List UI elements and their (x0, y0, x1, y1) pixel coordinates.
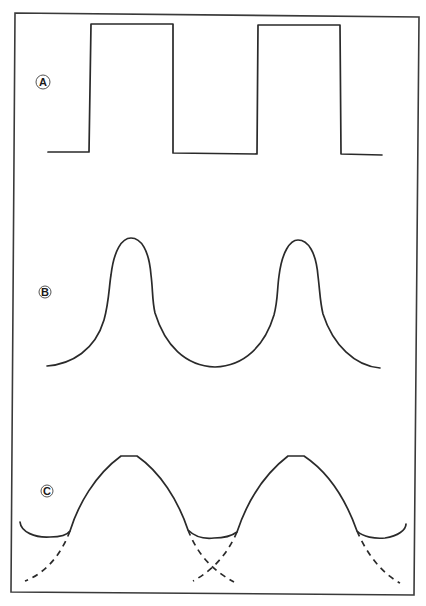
label-c-badge: C (41, 485, 53, 497)
panel-a: A (36, 24, 382, 155)
label-a-badge: A (36, 75, 50, 89)
panel-c: C (20, 456, 406, 583)
panel-b: B (39, 238, 380, 368)
dashed-tail-center-right (193, 532, 237, 581)
figure-frame (11, 13, 419, 595)
label-c: C (43, 485, 51, 497)
peaked-wave (47, 238, 380, 368)
diagram-canvas: A B C (0, 0, 426, 606)
label-b: B (41, 286, 49, 298)
arc-envelope (20, 456, 406, 538)
label-b-badge: B (39, 286, 51, 298)
label-a: A (39, 76, 47, 88)
square-wave (48, 24, 382, 155)
dashed-tail-left (25, 531, 70, 581)
